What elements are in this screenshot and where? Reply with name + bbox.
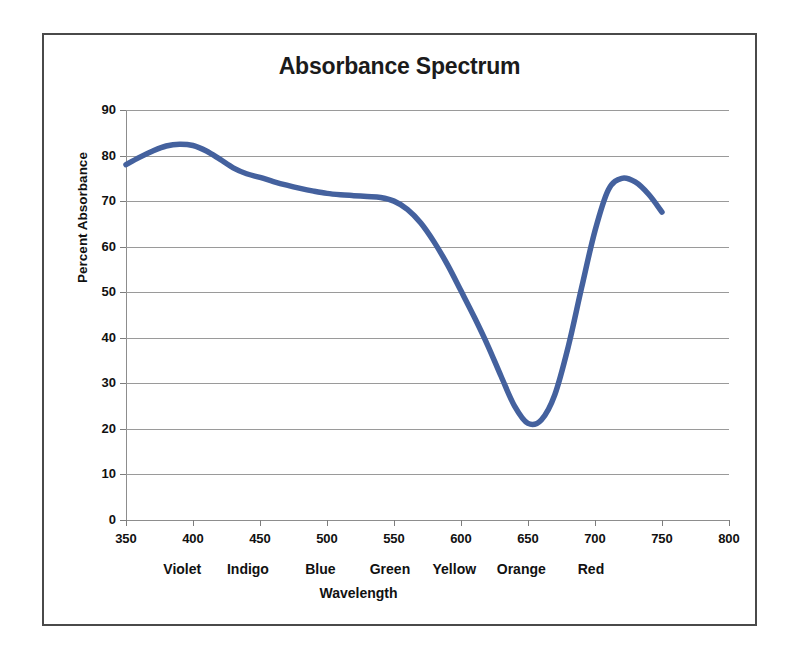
y-tick-label: 50 xyxy=(82,284,116,299)
y-tick-label: 0 xyxy=(82,512,116,527)
x-tick-label: 750 xyxy=(632,531,692,546)
y-tick-label: 20 xyxy=(82,421,116,436)
y-tick-label: 60 xyxy=(82,239,116,254)
y-tick-label: 70 xyxy=(82,193,116,208)
x-axis-title: Wavelength xyxy=(44,585,755,601)
x-tick-mark xyxy=(193,520,194,526)
x-tick-mark xyxy=(729,520,730,526)
x-tick-label: 600 xyxy=(431,531,491,546)
y-tick-label: 10 xyxy=(82,466,116,481)
x-tick-mark xyxy=(528,520,529,526)
x-tick-label: 350 xyxy=(96,531,156,546)
x-axis-title-text: Wavelength xyxy=(319,585,397,601)
y-tick-label: 30 xyxy=(82,375,116,390)
x-tick-mark xyxy=(260,520,261,526)
plot-area xyxy=(126,110,729,520)
x-axis-line xyxy=(126,520,729,521)
x-tick-label: 500 xyxy=(297,531,357,546)
color-band-label-red: Red xyxy=(546,561,636,577)
chart-title: Absorbance Spectrum xyxy=(44,53,755,80)
x-tick-label: 700 xyxy=(565,531,625,546)
x-tick-mark xyxy=(662,520,663,526)
y-tick-label: 80 xyxy=(82,148,116,163)
x-tick-mark xyxy=(595,520,596,526)
curve-path xyxy=(126,144,662,424)
x-tick-mark xyxy=(394,520,395,526)
x-tick-mark xyxy=(461,520,462,526)
x-tick-mark xyxy=(327,520,328,526)
x-tick-mark xyxy=(126,520,127,526)
x-tick-label: 400 xyxy=(163,531,223,546)
chart-frame: Absorbance Spectrum Percent Absorbance 0… xyxy=(42,33,757,626)
x-tick-label: 450 xyxy=(230,531,290,546)
absorbance-curve xyxy=(126,110,729,520)
x-tick-label: 650 xyxy=(498,531,558,546)
y-tick-label: 40 xyxy=(82,330,116,345)
y-tick-label: 90 xyxy=(82,102,116,117)
x-tick-label: 550 xyxy=(364,531,424,546)
x-tick-label: 800 xyxy=(699,531,759,546)
